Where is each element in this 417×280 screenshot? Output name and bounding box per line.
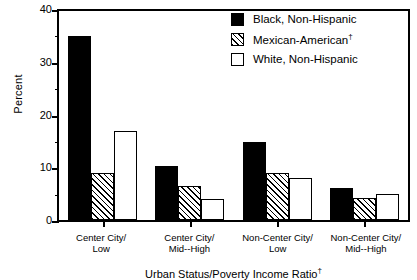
legend-label: White, Non-Hispanic	[253, 53, 358, 65]
x-axis-label-line2: Mid--High	[145, 243, 233, 254]
x-group-tick	[190, 220, 192, 227]
y-tick-label: 40	[26, 3, 52, 15]
bar	[243, 142, 266, 220]
bar	[353, 198, 376, 220]
legend-label: Mexican-American†	[253, 32, 353, 46]
legend-item: Mexican-American†	[231, 29, 358, 49]
legend-swatch	[231, 13, 244, 26]
bar	[376, 194, 399, 220]
bar	[178, 186, 201, 220]
x-axis-label-line2: Mid--High	[322, 243, 410, 254]
bar	[266, 173, 289, 220]
y-tick-label: 0	[26, 214, 52, 226]
x-axis-category-labels: Center City/LowCenter City/Mid--HighNon-…	[57, 232, 410, 254]
x-axis-label: Center City/Mid--High	[145, 232, 233, 254]
legend-label-dagger: †	[348, 32, 352, 41]
y-tick-mark	[52, 168, 59, 170]
y-axis-title: Percent	[12, 54, 24, 134]
bar	[330, 188, 353, 220]
bar	[114, 131, 137, 220]
y-tick-mark	[52, 63, 59, 65]
y-tick-label: 20	[26, 109, 52, 121]
legend-item: White, Non-Hispanic	[231, 49, 358, 69]
x-axis-label-line1: Center City/	[57, 232, 145, 243]
legend-swatch	[231, 33, 244, 46]
x-group-tick	[277, 220, 279, 227]
x-axis-label-line1: Non-Center City/	[234, 232, 322, 243]
x-axis-title-dagger: †	[317, 266, 321, 275]
bar	[68, 36, 91, 220]
x-group-tick	[364, 220, 366, 227]
legend-swatch	[231, 53, 244, 66]
legend: Black, Non-HispanicMexican-American†Whit…	[231, 9, 358, 69]
x-axis-label-line1: Non-Center City/	[322, 232, 410, 243]
x-axis-label: Non-Center City/Mid--High	[322, 232, 410, 254]
y-tick-mark	[52, 221, 59, 223]
x-axis-label-line2: Low	[234, 243, 322, 254]
bar-group	[59, 11, 146, 220]
legend-item: Black, Non-Hispanic	[231, 9, 358, 29]
bar	[155, 166, 178, 220]
x-axis-title: Urban Status/Poverty Income Ratio†	[57, 266, 410, 280]
bar	[289, 178, 312, 220]
bar	[201, 199, 224, 220]
y-tick-label: 30	[26, 56, 52, 68]
y-tick-label: 10	[26, 161, 52, 173]
bar-group	[146, 11, 233, 220]
x-axis-label-line2: Low	[57, 243, 145, 254]
x-axis-label: Center City/Low	[57, 232, 145, 254]
x-axis-title-text: Urban Status/Poverty Income Ratio	[145, 268, 317, 280]
bar	[91, 173, 114, 220]
x-axis-label-line1: Center City/	[145, 232, 233, 243]
x-axis-label: Non-Center City/Low	[234, 232, 322, 254]
y-tick-mark	[52, 116, 59, 118]
legend-label: Black, Non-Hispanic	[253, 13, 357, 25]
y-tick-mark	[52, 10, 59, 12]
x-group-tick	[103, 220, 105, 227]
